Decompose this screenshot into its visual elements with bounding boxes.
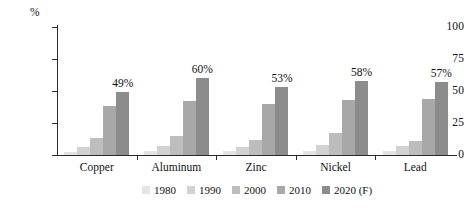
legend-swatch-icon (232, 186, 240, 194)
y-axis-unit-label: % (30, 6, 40, 18)
bar (90, 138, 103, 155)
bar: 57% (435, 82, 448, 155)
legend-item-label: 1990 (199, 184, 221, 196)
x-axis-line (57, 155, 457, 156)
bar (157, 146, 170, 155)
x-axis-category-label: Zinc (216, 161, 296, 174)
legend-item: 2010 (277, 184, 311, 196)
bar (303, 151, 316, 155)
bar: 60% (196, 78, 209, 155)
bar (396, 146, 409, 155)
x-axis-tick (375, 156, 376, 160)
x-axis-tick (137, 156, 138, 160)
bar (144, 151, 157, 155)
bar (236, 147, 249, 155)
bar (409, 141, 422, 155)
bar-group: 53% (216, 27, 296, 155)
bar (249, 140, 262, 155)
bar-value-label: 60% (192, 63, 213, 75)
bar-value-label: 58% (351, 66, 372, 78)
bar (103, 106, 116, 155)
x-axis-tick (296, 156, 297, 160)
bar (383, 151, 396, 155)
bar: 53% (275, 87, 288, 155)
x-axis-category-label: Aluminum (137, 161, 217, 174)
bar (183, 101, 196, 155)
bar-value-label: 49% (112, 77, 133, 89)
bar (170, 136, 183, 155)
x-axis-category-label: Copper (57, 161, 137, 174)
bar (262, 104, 275, 155)
x-axis-category-label: Nickel (296, 161, 376, 174)
bar-group: 60% (137, 27, 217, 155)
legend-item: 1990 (187, 184, 221, 196)
bar-chart: % 0255075100 49%60%53%58%57% CopperAlumi… (0, 0, 464, 212)
chart-legend: 19801990200020102020 (F) (57, 184, 457, 196)
plot-area: 49%60%53%58%57% (57, 27, 455, 155)
bar (77, 147, 90, 155)
legend-item-label: 2000 (244, 184, 266, 196)
x-axis-tick (216, 156, 217, 160)
legend-swatch-icon (277, 186, 285, 194)
bar (342, 100, 355, 155)
legend-item-label: 1980 (154, 184, 176, 196)
bar-group: 58% (296, 27, 376, 155)
legend-swatch-icon (322, 186, 330, 194)
bar (223, 151, 236, 155)
legend-item: 2000 (232, 184, 266, 196)
bar (329, 133, 342, 155)
legend-item-label: 2010 (289, 184, 311, 196)
legend-swatch-icon (187, 186, 195, 194)
bar-value-label: 53% (271, 72, 292, 84)
bar: 58% (355, 81, 368, 155)
legend-swatch-icon (142, 186, 150, 194)
bar-group: 49% (57, 27, 137, 155)
bar: 49% (116, 92, 129, 155)
bar-value-label: 57% (431, 67, 452, 79)
bar (64, 152, 77, 155)
x-axis-category-label: Lead (375, 161, 455, 174)
y-axis-tick (52, 155, 57, 156)
bar (422, 99, 435, 155)
legend-item: 1980 (142, 184, 176, 196)
legend-item-label: 2020 (F) (334, 184, 372, 196)
bar (316, 145, 329, 155)
bar-group: 57% (375, 27, 455, 155)
legend-item: 2020 (F) (322, 184, 372, 196)
